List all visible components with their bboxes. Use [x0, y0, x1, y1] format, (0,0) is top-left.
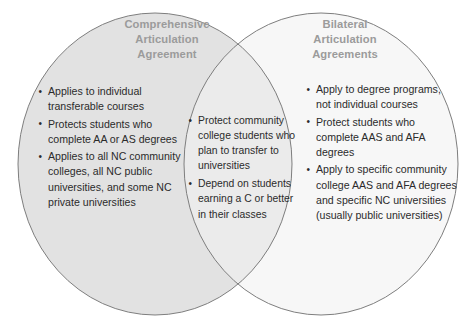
- left-set-bullet-list: Applies to individual transferable cours…: [38, 84, 188, 212]
- list-item: Protect students who complete AAS and AF…: [306, 115, 458, 160]
- list-item: Apply to specific community college AAS …: [306, 162, 458, 222]
- left-set-title-line-2: Articulation: [105, 32, 229, 47]
- right-set-title: Bilateral Articulation Agreements: [283, 17, 407, 63]
- list-item: Protect community college students who p…: [188, 113, 296, 173]
- list-item: Applies to all NC community colleges, al…: [38, 149, 188, 209]
- right-set-title-line-1: Bilateral: [283, 17, 407, 32]
- right-set-title-line-3: Agreements: [283, 47, 407, 62]
- left-set-title: Comprehensive Articulation Agreement: [105, 17, 229, 63]
- list-item: Depend on students earning a C or better…: [188, 176, 296, 221]
- venn-diagram: Comprehensive Articulation Agreement Bil…: [0, 0, 475, 327]
- intersection-bullet-list: Protect community college students who p…: [188, 113, 296, 225]
- list-item: Protects students who complete AA or AS …: [38, 117, 188, 147]
- left-set-title-line-1: Comprehensive: [105, 17, 229, 32]
- left-set-title-line-3: Agreement: [105, 47, 229, 62]
- right-set-bullet-list: Apply to degree programs, not individual…: [306, 82, 458, 225]
- list-item: Applies to individual transferable cours…: [38, 84, 188, 114]
- right-set-title-line-2: Articulation: [283, 32, 407, 47]
- list-item: Apply to degree programs, not individual…: [306, 82, 458, 112]
